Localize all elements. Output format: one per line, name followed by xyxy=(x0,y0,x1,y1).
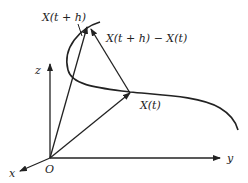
origin-label: O xyxy=(45,163,54,176)
difference-label: X(t + h) − X(t) xyxy=(105,32,187,45)
x-t-label: X(t) xyxy=(139,99,161,112)
vector-x-t-plus-h xyxy=(50,27,87,158)
space-curve-diagram: X(t + h) X(t + h) − X(t) X(t) z y x O xyxy=(0,0,248,183)
z-axis-label: z xyxy=(34,64,41,77)
y-axis-label: y xyxy=(226,152,234,165)
x-t-plus-h-label: X(t + h) xyxy=(41,11,86,24)
vector-x-t xyxy=(50,93,130,158)
x-axis-label: x xyxy=(9,167,16,180)
